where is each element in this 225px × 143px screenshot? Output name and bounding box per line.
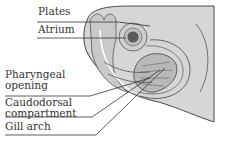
atrium-core (128, 32, 139, 43)
label-atrium: Atrium (38, 24, 75, 35)
label-gill-arch: Gill arch (5, 121, 51, 132)
label-pharyngeal-opening: Pharyngeal opening (5, 69, 65, 91)
anatomy-diagram: Plates Atrium Pharyngeal opening Caudodo… (0, 0, 225, 143)
label-caudodorsal-compartment: Caudodorsal compartment (5, 97, 77, 119)
label-plates: Plates (38, 6, 71, 17)
